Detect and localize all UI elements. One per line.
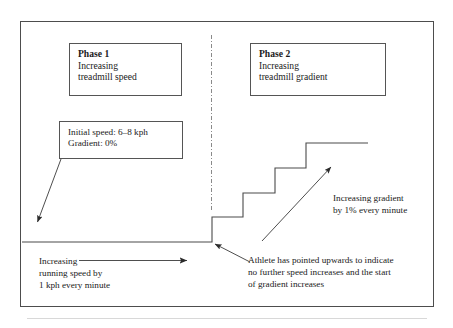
athlete-pointer-arrow — [215, 244, 250, 262]
athlete-signal-note: Athlete has pointed upwards to indicate … — [248, 255, 394, 291]
speed-note-line-3: 1 kph every minute — [39, 280, 110, 292]
initial-gradient-text: Gradient: 0% — [68, 138, 175, 149]
figure-root: Phase 1 Increasing treadmill speed Phase… — [0, 0, 453, 328]
phase-2-line-2: treadmill gradient — [259, 71, 378, 83]
phase-2-box: Phase 2 Increasing treadmill gradient — [250, 43, 386, 96]
phase-2-line-1: Increasing — [259, 60, 378, 72]
speed-note-line-1: Increasing — [39, 256, 110, 268]
initial-conditions-box: Initial speed: 6–8 kph Gradient: 0% — [59, 121, 183, 159]
phase-1-line-2: treadmill speed — [78, 71, 174, 83]
speed-note-line-2: running speed by — [39, 268, 110, 280]
phase-1-title: Phase 1 — [78, 48, 174, 60]
gradient-note-line-1: Increasing gradient — [333, 193, 407, 205]
increasing-speed-note: Increasing running speed by 1 kph every … — [39, 256, 110, 292]
increasing-gradient-note: Increasing gradient by 1% every minute — [333, 193, 407, 217]
phase-1-line-1: Increasing — [78, 60, 174, 72]
initial-speed-text: Initial speed: 6–8 kph — [68, 127, 175, 138]
phase-1-box: Phase 1 Increasing treadmill speed — [69, 43, 182, 96]
bottom-separator-rule — [27, 318, 427, 319]
increasing-gradient-arrow — [262, 167, 331, 241]
athlete-note-line-1: Athlete has pointed upwards to indicate — [248, 255, 394, 267]
initial-speed-pointer-arrow — [38, 159, 62, 222]
gradient-note-line-2: by 1% every minute — [333, 205, 407, 217]
phase-2-title: Phase 2 — [259, 48, 378, 60]
athlete-note-line-2: no further speed increases and the start — [248, 267, 394, 279]
athlete-note-line-3: of gradient increases — [248, 279, 394, 291]
